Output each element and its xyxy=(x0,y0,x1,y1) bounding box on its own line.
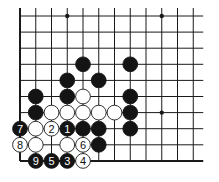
move-number: 7 xyxy=(17,123,23,135)
black-stone-icon xyxy=(76,121,91,136)
white-stone-move-2: 2 xyxy=(44,121,59,136)
black-stone-icon xyxy=(91,137,106,152)
star-point xyxy=(160,14,164,18)
black-stone xyxy=(91,137,106,152)
black-stone xyxy=(28,105,43,120)
black-stone-icon xyxy=(60,89,75,104)
white-stone-icon xyxy=(28,121,43,136)
black-stone-icon xyxy=(91,73,106,88)
black-stone xyxy=(76,57,91,72)
black-stone-icon xyxy=(123,121,138,136)
black-stone-icon xyxy=(28,105,43,120)
star-point xyxy=(160,110,164,114)
white-stone xyxy=(107,105,122,120)
move-number: 2 xyxy=(48,123,54,135)
black-stone xyxy=(28,89,43,104)
black-stone xyxy=(91,73,106,88)
black-stone xyxy=(123,105,138,120)
black-stone-move-7: 7 xyxy=(13,121,28,136)
black-stone-icon xyxy=(123,89,138,104)
black-stone xyxy=(60,73,75,88)
white-stone-icon xyxy=(44,105,59,120)
black-stone xyxy=(60,89,75,104)
black-stone xyxy=(91,121,106,136)
white-stone xyxy=(60,137,75,152)
white-stone xyxy=(76,89,91,104)
white-stone-icon xyxy=(76,105,91,120)
black-stone-move-1: 1 xyxy=(60,121,75,136)
black-stone-icon xyxy=(28,89,43,104)
white-stone-move-8: 8 xyxy=(13,137,28,152)
black-stone xyxy=(123,89,138,104)
black-stone-move-5: 5 xyxy=(44,154,59,169)
black-stone-move-3: 3 xyxy=(60,154,75,169)
go-board: 721869534 xyxy=(0,0,219,182)
white-stone-icon xyxy=(107,105,122,120)
black-stone-icon xyxy=(60,73,75,88)
white-stone-icon xyxy=(60,105,75,120)
star-point xyxy=(65,14,69,18)
white-stone xyxy=(91,105,106,120)
white-stone xyxy=(28,137,43,152)
black-stone-move-9: 9 xyxy=(28,154,43,169)
white-stone xyxy=(44,105,59,120)
move-number: 6 xyxy=(80,139,86,151)
black-stone xyxy=(123,57,138,72)
black-stone-icon xyxy=(123,105,138,120)
white-stone xyxy=(60,105,75,120)
move-number: 9 xyxy=(33,155,39,167)
black-stone-icon xyxy=(91,121,106,136)
white-stone-icon xyxy=(28,137,43,152)
move-number: 4 xyxy=(80,155,86,167)
move-number: 3 xyxy=(64,155,70,167)
white-stone-icon xyxy=(76,89,91,104)
white-stone-move-4: 4 xyxy=(76,154,91,169)
move-number: 5 xyxy=(48,155,54,167)
white-stone xyxy=(28,121,43,136)
grid-lines xyxy=(20,8,203,161)
white-stone-icon xyxy=(60,137,75,152)
black-stone-icon xyxy=(76,57,91,72)
move-number: 1 xyxy=(64,123,70,135)
black-stone xyxy=(76,121,91,136)
white-stone xyxy=(76,105,91,120)
move-number: 8 xyxy=(17,139,23,151)
black-stone xyxy=(123,121,138,136)
white-stone-move-6: 6 xyxy=(76,137,91,152)
black-stone-icon xyxy=(123,57,138,72)
white-stone-icon xyxy=(91,105,106,120)
